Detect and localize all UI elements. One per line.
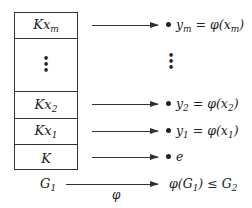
codomain-label: φ(G1) ≤ G2 bbox=[169, 176, 237, 193]
vertical-ellipsis-icon: ••• bbox=[41, 56, 51, 74]
group-label: G1 bbox=[40, 176, 56, 193]
coset-box: Kxm ••• Kx2 Kx1 K bbox=[14, 12, 78, 170]
coset-kx2-label: Kx2 bbox=[35, 97, 58, 114]
arrow-kxm bbox=[92, 25, 158, 26]
coset-kx1: Kx1 bbox=[15, 119, 77, 145]
arrow-kx1 bbox=[92, 131, 158, 132]
coset-ellipsis: ••• bbox=[15, 39, 77, 92]
coset-k: K bbox=[15, 145, 77, 171]
arrow-k bbox=[92, 157, 158, 158]
point-icon bbox=[166, 128, 171, 133]
coset-k-label: K bbox=[41, 151, 51, 166]
coset-kx1-label: Kx1 bbox=[35, 123, 58, 140]
coset-kx2: Kx2 bbox=[15, 92, 77, 119]
image-ym: ym = φ(xm) bbox=[166, 17, 244, 34]
arrow-phi bbox=[66, 184, 158, 185]
coset-kxm: Kxm bbox=[15, 13, 77, 39]
image-identity: e bbox=[166, 149, 183, 164]
map-label: φ bbox=[112, 188, 120, 202]
point-icon bbox=[166, 22, 171, 27]
arrow-kx2 bbox=[92, 104, 158, 105]
point-icon bbox=[166, 154, 171, 159]
image-y1: y1 = φ(x1) bbox=[166, 123, 239, 140]
image-y2: y2 = φ(x2) bbox=[166, 96, 239, 113]
point-icon bbox=[166, 101, 171, 106]
vertical-ellipsis-icon: ••• bbox=[166, 53, 176, 71]
coset-kxm-label: Kxm bbox=[33, 17, 59, 34]
